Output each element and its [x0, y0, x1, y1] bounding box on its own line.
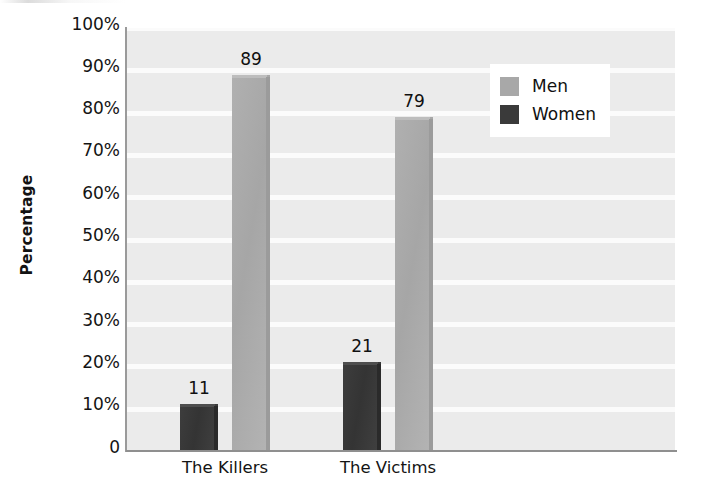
bar-top-edge	[232, 75, 267, 78]
bar-chart: Percentage 100%90%80%70%60%50%40%30%20%1…	[0, 0, 701, 501]
bar-top-edge	[395, 117, 430, 120]
bar-face	[395, 117, 433, 451]
y-axis-tick-label: 40%	[36, 269, 120, 286]
legend-item-men: Men	[500, 72, 596, 100]
bar-side-edge	[266, 77, 270, 451]
bar-top-edge	[343, 362, 378, 365]
y-axis-title: Percentage	[18, 135, 36, 315]
y-axis-tick-labels: 100%90%80%70%60%50%40%30%20%10%0	[36, 24, 120, 452]
y-axis-tick-label: 90%	[36, 58, 120, 75]
y-axis-tick-label: 70%	[36, 142, 120, 159]
scan-artifact	[0, 0, 701, 3]
chart-legend: MenWomen	[490, 64, 610, 137]
y-axis-tick-label: 80%	[36, 100, 120, 117]
y-axis-tick-label: 50%	[36, 227, 120, 244]
x-axis-tick-label: The Victims	[340, 458, 436, 478]
bar-face	[343, 362, 381, 451]
legend-item-women: Women	[500, 100, 596, 128]
x-axis-line	[126, 450, 677, 452]
bar-value-label: 21	[351, 338, 373, 355]
y-axis-tick-label: 100%	[36, 16, 120, 33]
x-axis-tick-label: The Killers	[182, 458, 268, 478]
bar-face	[232, 75, 270, 451]
legend-swatch-men	[500, 77, 519, 96]
bar-value-label: 11	[188, 380, 210, 397]
bar-women-the-killers	[180, 404, 218, 451]
bar-top-edge	[180, 404, 215, 407]
bar-side-edge	[429, 119, 433, 451]
bar-side-edge	[214, 406, 218, 451]
y-axis-tick-label: 10%	[36, 396, 120, 413]
bar-side-edge	[377, 364, 381, 451]
legend-label: Women	[532, 105, 596, 124]
y-axis-line	[125, 27, 127, 452]
y-axis-tick-label: 30%	[36, 312, 120, 329]
bar-value-label: 79	[403, 93, 425, 110]
bar-value-label: 89	[240, 51, 262, 68]
y-axis-tick-label: 0	[36, 439, 120, 456]
gridline	[127, 28, 675, 31]
bar-men-the-victims	[395, 117, 433, 451]
bar-women-the-victims	[343, 362, 381, 451]
x-axis-tick-labels: The KillersThe Victims	[127, 458, 675, 488]
bar-face	[180, 404, 218, 451]
y-axis-tick-label: 20%	[36, 354, 120, 371]
legend-label: Men	[532, 77, 568, 96]
legend-swatch-women	[500, 105, 519, 124]
y-axis-tick-label: 60%	[36, 185, 120, 202]
bar-men-the-killers	[232, 75, 270, 451]
